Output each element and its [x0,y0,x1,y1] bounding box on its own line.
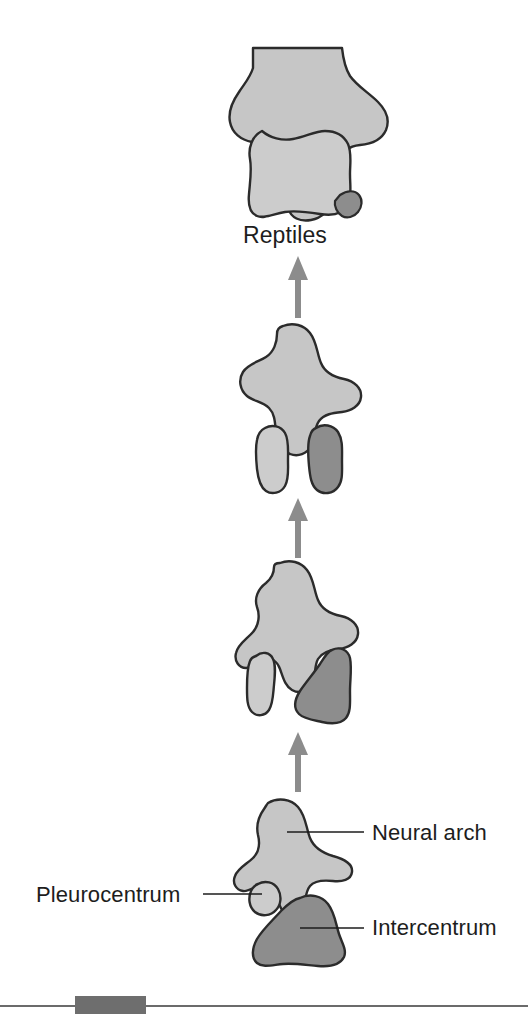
part-label-pleurocentrum: Pleurocentrum [36,884,180,906]
vertebra-reptiles [229,48,387,221]
vertebra-evolution-figure: Reptiles Neural arch Pleurocentrum Inter… [0,0,528,1016]
pleurocentrum-shape-stage-1 [249,882,280,915]
intercentrum-shape-reptiles [335,191,362,217]
arrow-2-to-3 [288,498,308,558]
part-label-intercentrum: Intercentrum [372,917,497,939]
arrow-3-to-4 [288,256,308,318]
footer-rule-block [75,996,146,1014]
pleurocentrum-shape-stage-2 [247,653,275,715]
vertebra-stage-3 [240,324,361,493]
arrow-1-to-2 [288,732,308,792]
pleurocentrum-shape-stage-3 [256,426,288,493]
vertebra-stage-1 [234,800,352,967]
stage-label-reptiles: Reptiles [243,224,327,247]
vertebra-stage-2 [236,561,359,723]
figure-canvas [0,0,528,1016]
intercentrum-shape-stage-3 [308,425,342,493]
part-label-neural-arch: Neural arch [372,822,487,844]
